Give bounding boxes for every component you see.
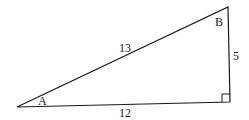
right-angle-marker — [222, 94, 230, 102]
side-label-hypotenuse: 13 — [119, 41, 131, 55]
vertex-label-b: B — [215, 15, 223, 29]
side-label-base: 12 — [119, 106, 131, 120]
triangle — [17, 7, 230, 107]
triangle-diagram: A B 13 5 12 — [0, 0, 249, 120]
vertex-label-a: A — [38, 94, 47, 108]
side-label-vertical: 5 — [233, 49, 239, 63]
